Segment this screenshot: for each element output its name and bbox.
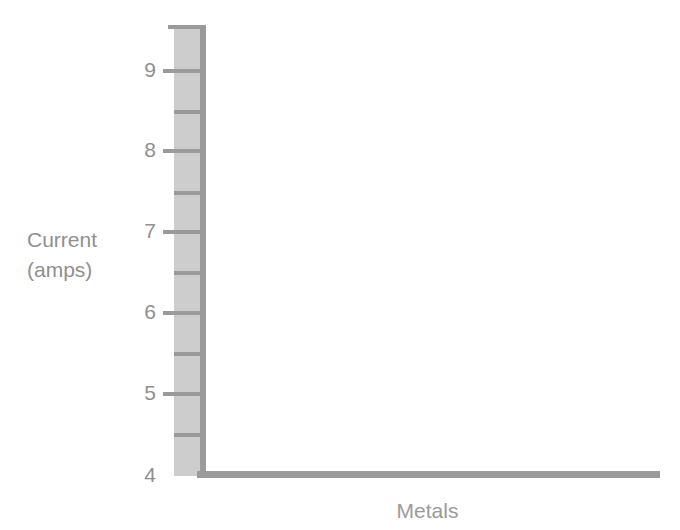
y-axis-tick-label: 9 [128, 59, 156, 80]
y-axis-title: Current (amps) [27, 225, 147, 285]
y-axis-tick-label-wrap: 6 [116, 301, 156, 325]
x-axis-title: Metals [340, 500, 515, 521]
y-axis-tick-label-wrap: 9 [116, 59, 156, 83]
y-axis-tick-minor-6-5 [174, 271, 206, 275]
chart-container: 9 8 7 6 5 4 Current (amps) Metals [0, 0, 680, 530]
y-axis-tick-label: 8 [128, 139, 156, 160]
y-axis-tick-minor-4-5 [174, 433, 206, 437]
y-axis-tick-label-wrap: 8 [116, 139, 156, 163]
x-axis-line [197, 471, 660, 478]
y-axis-tick-major-6 [163, 311, 206, 315]
y-axis-tick-label-wrap: 4 [116, 464, 156, 488]
y-axis-tick-minor-7-5 [174, 191, 206, 195]
y-axis-title-line-2: (amps) [27, 255, 147, 285]
y-axis-tick-label: 4 [128, 464, 156, 485]
y-axis-tick-major-8 [163, 149, 206, 153]
y-axis-tick-major-9 [163, 69, 206, 73]
y-axis-tick-major-7 [163, 230, 206, 234]
y-axis-band [174, 25, 201, 476]
y-axis: 9 8 7 6 5 4 Current (amps) [0, 0, 680, 530]
y-axis-tick-label-wrap: 5 [116, 382, 156, 406]
y-axis-tick-top-cap [168, 25, 206, 29]
y-axis-tick-minor-8-5 [174, 110, 206, 114]
y-axis-title-line-1: Current [27, 225, 147, 255]
y-axis-tick-label: 5 [128, 382, 156, 403]
y-axis-tick-major-5 [163, 392, 206, 396]
y-axis-tick-label: 6 [128, 301, 156, 322]
y-axis-line [200, 25, 206, 476]
y-axis-tick-minor-5-5 [174, 352, 206, 356]
